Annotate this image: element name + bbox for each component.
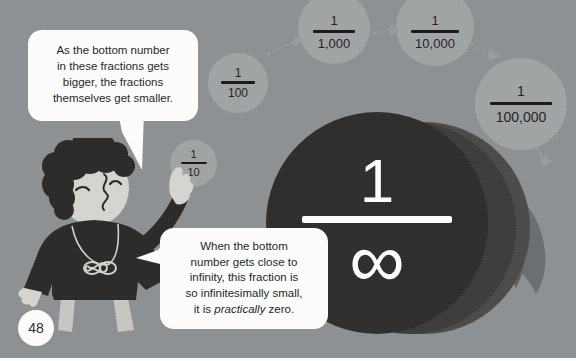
fraction-circle-1-1000: 1 1,000: [298, 0, 370, 64]
fraction-numerator: 1: [235, 67, 242, 79]
bubble-line: number gets close to: [191, 256, 298, 268]
bubble-line: As the bottom number: [56, 44, 169, 56]
fraction-denominator: 1,000: [318, 37, 351, 50]
fraction-bar: [490, 102, 552, 106]
fraction-circle-1-100: 1 100: [208, 53, 268, 113]
arrow-icon-1000-to-10000: [366, 22, 404, 44]
arrow-icon-10000-to-100000: [470, 40, 506, 68]
page-number: 48: [18, 310, 54, 346]
speech-bubble-text: When the bottom number gets close to inf…: [168, 239, 320, 317]
fraction-circle-1-10000: 1 10,000: [396, 0, 474, 66]
fraction-numerator: 1: [360, 155, 394, 208]
fraction-denominator: ∞: [349, 229, 405, 291]
bubble-line: in these fractions gets: [57, 60, 169, 72]
fraction-denominator: 100: [228, 87, 248, 99]
page-illustration: 1 10 1 100 1 1,000 1 10,000 1 100,000: [0, 0, 576, 361]
speech-bubble-text: As the bottom number in these fractions …: [37, 43, 189, 106]
fraction-bar: [411, 30, 459, 33]
bubble-line: so infinitesimally small,: [186, 287, 303, 299]
fraction-bar: [313, 30, 355, 33]
bubble-line: bigger, the fractions: [63, 76, 163, 88]
fraction-bar: [221, 81, 255, 84]
fraction-denominator: 10,000: [415, 37, 455, 50]
fraction-numerator: 1: [517, 84, 525, 98]
speech-bubble-bottom: When the bottom number gets close to inf…: [160, 228, 328, 329]
speech-bubble-tail-top: [118, 112, 164, 174]
page-number-label: 48: [28, 320, 44, 336]
bubble-line: infinity, this fraction is: [190, 271, 298, 283]
fraction-numerator: 1: [431, 14, 438, 27]
bubble-line: themselves get smaller.: [53, 92, 173, 104]
arrow-icon-100-to-1000: [266, 36, 306, 62]
bubble-line: When the bottom: [200, 240, 288, 252]
fraction-numerator: 1: [330, 14, 337, 27]
speech-bubble-top-left: As the bottom number in these fractions …: [28, 30, 198, 121]
bubble-line: it is practically zero.: [194, 303, 294, 315]
fraction-denominator: 100,000: [496, 110, 547, 124]
bubble-emphasis: practically: [214, 303, 265, 315]
pointing-hand: [169, 167, 193, 204]
